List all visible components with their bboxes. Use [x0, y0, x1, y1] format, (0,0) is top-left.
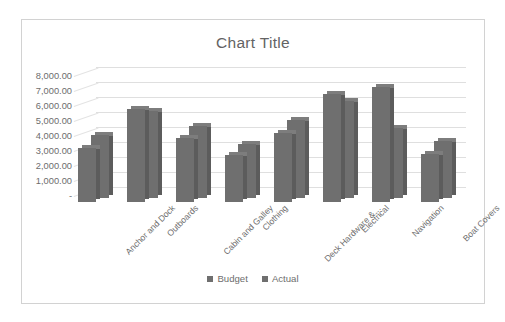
bar-group: [372, 67, 413, 202]
bar-side-face: [109, 132, 113, 195]
bar-side-face: [439, 151, 443, 199]
bar-side-face: [96, 145, 100, 199]
y-axis-tick-label: 5,000.00: [22, 116, 72, 126]
bar-face: [225, 155, 243, 202]
x-axis: Anchor and DockOutboardsCabin and Galley…: [74, 203, 474, 278]
bar-side-face: [403, 125, 407, 196]
bar-face: [127, 109, 145, 202]
bar-group: [421, 67, 462, 202]
bar-group: [323, 67, 364, 202]
bar-side-face: [145, 106, 149, 199]
bar-side-face: [341, 91, 345, 199]
y-axis-tick-label: 1,000.00: [22, 176, 72, 186]
bar-side-face: [292, 130, 296, 199]
bar-face: [323, 94, 341, 202]
y-axis-tick-label: 7,000.00: [22, 86, 72, 96]
y-axis-tick-label: 4,000.00: [22, 131, 72, 141]
bar-side-face: [158, 108, 162, 195]
chart-frame[interactable]: Chart Title 8,000.007,000.006,000.005,00…: [21, 19, 485, 304]
bar-budget[interactable]: [127, 109, 145, 202]
bar-group: [225, 67, 266, 202]
bar-side-face: [305, 117, 309, 195]
bar-side-face: [256, 141, 260, 195]
y-axis-tick-label: 6,000.00: [22, 101, 72, 111]
bar-group: [78, 67, 119, 202]
bar-budget[interactable]: [225, 155, 243, 202]
bar-group: [274, 67, 315, 202]
bar-budget[interactable]: [274, 133, 292, 202]
bar-side-face: [207, 123, 211, 195]
bar-face: [274, 133, 292, 202]
legend-label: Actual: [272, 273, 299, 284]
bar-face: [78, 148, 96, 202]
bar-side-face: [354, 98, 358, 196]
y-axis-tick-label: 2,000.00: [22, 161, 72, 171]
chart-legend[interactable]: BudgetActual: [22, 273, 484, 284]
y-axis-tick-label: 8,000.00: [22, 71, 72, 81]
bar-budget[interactable]: [421, 154, 439, 202]
legend-item-budget[interactable]: Budget: [207, 273, 247, 284]
bar-side-face: [390, 84, 394, 200]
bar-face: [176, 138, 194, 203]
bar-budget[interactable]: [78, 148, 96, 202]
bar-side-face: [452, 138, 456, 195]
y-axis-tick-label: 3,000.00: [22, 146, 72, 156]
legend-swatch-icon: [207, 276, 213, 282]
y-axis-tick-label: -: [22, 191, 72, 201]
bar-group: [176, 67, 217, 202]
legend-swatch-icon: [262, 276, 268, 282]
bars-layer: [74, 67, 466, 202]
bar-side-face: [243, 152, 247, 199]
y-axis: 8,000.007,000.006,000.005,000.004,000.00…: [22, 67, 72, 197]
x-axis-category-label: Boat Covers: [461, 203, 502, 244]
bar-face: [421, 154, 439, 202]
bar-budget[interactable]: [176, 138, 194, 203]
bar-side-face: [194, 135, 198, 200]
bar-face: [372, 87, 390, 203]
legend-item-actual[interactable]: Actual: [262, 273, 299, 284]
x-axis-category-label: Navigation: [410, 203, 446, 239]
bar-budget[interactable]: [372, 87, 390, 203]
chart-title[interactable]: Chart Title: [22, 34, 484, 52]
legend-label: Budget: [217, 273, 247, 284]
bar-group: [127, 67, 168, 202]
bar-budget[interactable]: [323, 94, 341, 202]
